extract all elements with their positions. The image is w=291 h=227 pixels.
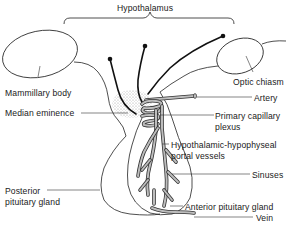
label-portal-vessels-1: Hypothalamic-hypophyseal [171,140,277,150]
label-primary-capillary-1: Primary capillary [215,111,280,121]
label-median-eminence: Median eminence [5,108,74,118]
hypothalamus-bracket [64,12,234,24]
neuron-cell-body-3 [221,34,226,39]
label-sinuses: Sinuses [252,170,283,180]
hypothalamus-pituitary-diagram: Hypothalamus Mammillary body Median emin… [0,0,291,227]
label-vein: Vein [256,213,273,223]
neuron-cell-body-1 [108,57,113,62]
leader-mammillary [38,66,40,77]
neuron-axon-3 [148,36,223,94]
neuron-cell-body-2 [143,44,148,49]
label-mammillary-body: Mammillary body [5,88,71,98]
leader-optic-chiasm [246,56,253,72]
label-portal-vessels-2: portal vessels [171,151,225,161]
label-posterior-pituitary-1: Posterior [5,186,40,196]
label-primary-capillary-2: plexus [215,122,240,132]
optic-chiasm-shape [212,32,269,80]
mammillary-body-shape [0,24,82,85]
label-hypothalamus: Hypothalamus [117,3,173,13]
label-optic-chiasm: Optic chiasm [233,77,284,87]
label-artery: Artery [254,93,278,103]
posterior-pituitary-outline [101,136,160,215]
label-anterior-pituitary: Anterior pituitary gland [185,202,273,212]
label-posterior-pituitary-2: pituitary gland [5,197,60,207]
